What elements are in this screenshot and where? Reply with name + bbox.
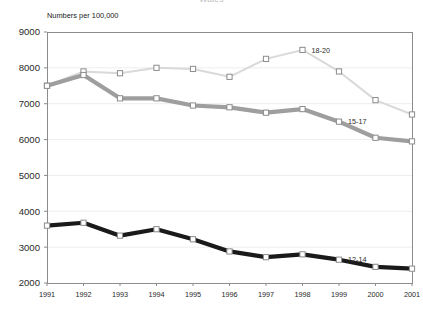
- data-point-marker: [409, 266, 414, 271]
- data-point-marker: [336, 69, 341, 74]
- data-point-marker: [336, 257, 341, 262]
- data-point-marker: [227, 74, 232, 79]
- x-tick-label: 1999: [331, 290, 347, 299]
- y-tick-label: 8000: [19, 62, 40, 73]
- data-point-marker: [154, 227, 159, 232]
- x-tick-label: 2000: [367, 290, 383, 299]
- data-point-marker: [336, 119, 341, 124]
- data-point-marker: [117, 96, 122, 101]
- data-point-marker: [263, 56, 268, 61]
- data-point-marker: [409, 112, 414, 117]
- y-axis-ticks: 20003000400050006000700080009000: [19, 26, 47, 288]
- x-tick-label: 1994: [148, 290, 164, 299]
- data-point-marker: [117, 71, 122, 76]
- data-point-marker: [300, 252, 305, 257]
- series-annotations: 18-2015-1712-14: [312, 46, 367, 265]
- x-tick-label: 1991: [39, 290, 55, 299]
- plot-frame-rect: [48, 33, 413, 284]
- data-point-marker: [190, 237, 195, 242]
- data-point-marker: [154, 65, 159, 70]
- line-chart-plot: 20003000400050006000700080009000 1991199…: [0, 0, 423, 312]
- data-point-marker: [300, 106, 305, 111]
- data-point-marker: [263, 110, 268, 115]
- data-point-marker: [373, 135, 378, 140]
- data-point-marker: [227, 249, 232, 254]
- data-point-marker: [154, 96, 159, 101]
- data-point-marker: [263, 255, 268, 260]
- data-point-marker: [373, 98, 378, 103]
- grid-lines: [47, 68, 412, 247]
- data-point-marker: [300, 47, 305, 52]
- data-point-marker: [409, 139, 414, 144]
- data-point-marker: [44, 223, 49, 228]
- data-point-marker: [44, 83, 49, 88]
- x-axis-ticks: 1991199219931994199519961997199819992000…: [39, 283, 420, 299]
- y-tick-label: 4000: [19, 206, 40, 217]
- data-point-marker: [81, 220, 86, 225]
- data-point-marker: [81, 72, 86, 77]
- series-15-17: [44, 72, 414, 144]
- y-tick-label: 9000: [19, 26, 40, 37]
- y-tick-label: 2000: [19, 277, 40, 288]
- data-point-marker: [117, 233, 122, 238]
- data-series: [44, 47, 414, 271]
- y-tick-label: 6000: [19, 134, 40, 145]
- data-point-marker: [190, 103, 195, 108]
- data-point-marker: [373, 264, 378, 269]
- x-tick-label: 1998: [294, 290, 310, 299]
- plot-frame: [48, 33, 413, 284]
- series-label-15-17: 15-17: [348, 117, 366, 126]
- x-tick-label: 1993: [112, 290, 128, 299]
- data-point-marker: [190, 66, 195, 71]
- data-point-marker: [227, 105, 232, 110]
- series-label-12-14: 12-14: [348, 255, 366, 264]
- y-tick-label: 3000: [19, 242, 40, 253]
- x-tick-label: 1995: [185, 290, 201, 299]
- x-tick-label: 1997: [258, 290, 274, 299]
- x-tick-label: 1992: [75, 290, 91, 299]
- y-tick-label: 5000: [19, 170, 40, 181]
- chart-figure: Wales Numbers per 100,000 20003000400050…: [0, 0, 423, 312]
- series-label-18-20: 18-20: [312, 46, 330, 55]
- y-tick-label: 7000: [19, 98, 40, 109]
- x-tick-label: 1996: [221, 290, 237, 299]
- x-tick-label: 2001: [404, 290, 420, 299]
